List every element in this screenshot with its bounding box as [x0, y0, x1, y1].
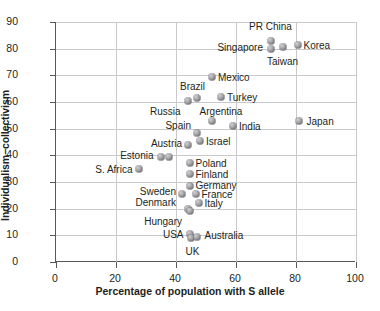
data-point-australia — [194, 233, 201, 240]
gridline-vertical — [356, 22, 357, 262]
plot-area: PR ChinaSingaporeTaiwanKoreaMexicoBrazil… — [55, 22, 355, 262]
x-tick — [116, 262, 117, 268]
data-point-argentina — [209, 117, 216, 124]
y-tick — [50, 102, 56, 103]
y-tick-label: 50 — [6, 122, 18, 134]
y-tick-label: 20 — [6, 202, 18, 214]
y-tick — [50, 75, 56, 76]
point-label-finland: Finland — [196, 169, 229, 180]
y-tick-label: 30 — [6, 175, 18, 187]
point-label-sweden: Sweden — [140, 186, 176, 197]
x-tick-label: 80 — [289, 272, 301, 284]
gridline-horizontal — [56, 75, 356, 76]
point-label-argentina: Argentina — [200, 106, 243, 117]
point-label-turkey: Turkey — [227, 91, 257, 102]
point-label-korea: Korea — [304, 39, 331, 50]
point-label-denmark: Denmark — [135, 197, 176, 208]
point-label-japan: Japan — [307, 115, 334, 126]
point-label-pr-china: PR China — [249, 21, 292, 32]
data-point-hungary — [186, 208, 193, 215]
x-tick-label: 40 — [169, 272, 181, 284]
point-label-taiwan: Taiwan — [267, 55, 298, 66]
data-point-brazil — [194, 95, 201, 102]
x-tick — [296, 262, 297, 268]
x-tick — [56, 262, 57, 268]
y-tick-label: 60 — [6, 95, 18, 107]
data-point-s-africa — [135, 165, 142, 172]
y-tick — [50, 129, 56, 130]
y-tick-label: 0 — [12, 255, 18, 267]
data-point-korea — [294, 41, 301, 48]
point-label-austria: Austria — [151, 138, 182, 149]
gridline-horizontal — [56, 102, 356, 103]
data-point-spain — [194, 129, 201, 136]
x-tick-label: 100 — [346, 272, 364, 284]
y-tick — [50, 22, 56, 23]
y-tick — [50, 49, 56, 50]
x-tick — [176, 262, 177, 268]
gridline-horizontal — [56, 155, 356, 156]
point-label-mexico: Mexico — [218, 71, 250, 82]
gridline-horizontal — [56, 129, 356, 130]
data-point-singapore — [267, 45, 274, 52]
point-label-poland: Poland — [196, 158, 227, 169]
x-tick-label: 20 — [109, 272, 121, 284]
x-tick-label: 0 — [52, 272, 58, 284]
point-label-australia: Australia — [205, 230, 244, 241]
point-label-usa: USA — [163, 229, 184, 240]
data-point-germany — [186, 183, 193, 190]
data-point-japan — [296, 117, 303, 124]
y-tick-label: 10 — [6, 228, 18, 240]
y-tick-label: 80 — [6, 42, 18, 54]
data-point-sweden — [179, 191, 186, 198]
point-label-italy: Italy — [205, 198, 223, 209]
x-tick-label: 60 — [229, 272, 241, 284]
point-label-hungary: Hungary — [144, 215, 182, 226]
data-point-russia — [185, 97, 192, 104]
data-point-italy — [195, 200, 202, 207]
data-point-india — [230, 123, 237, 130]
x-tick — [356, 262, 357, 268]
y-tick — [50, 155, 56, 156]
y-tick-label: 70 — [6, 68, 18, 80]
point-label-israel: Israel — [206, 135, 230, 146]
y-tick — [50, 182, 56, 183]
point-label-india: India — [239, 121, 261, 132]
point-label-russia: Russia — [150, 106, 181, 117]
data-point-poland — [186, 160, 193, 167]
data-point-estonia — [158, 153, 165, 160]
data-point-pr-china — [267, 37, 274, 44]
x-tick — [236, 262, 237, 268]
y-tick — [50, 209, 56, 210]
data-point-israel — [197, 137, 204, 144]
data-point-mexico — [209, 73, 216, 80]
point-label-brazil: Brazil — [180, 81, 205, 92]
data-point-finland — [186, 171, 193, 178]
data-point-austria — [185, 141, 192, 148]
scatter-plot-figure: Individualism−collectivism Percentage of… — [0, 0, 380, 311]
data-point-france — [192, 191, 199, 198]
y-tick-label: 90 — [6, 15, 18, 27]
point-label-s-africa: S. Africa — [95, 163, 132, 174]
y-tick — [50, 235, 56, 236]
y-tick-label: 40 — [6, 148, 18, 160]
data-point — [165, 153, 172, 160]
gridline-vertical — [116, 22, 117, 262]
point-label-uk: UK — [186, 246, 200, 257]
gridline-vertical — [236, 22, 237, 262]
point-label-spain: Spain — [165, 119, 191, 130]
x-axis-title: Percentage of population with S allele — [0, 285, 380, 297]
point-label-singapore: Singapore — [217, 42, 263, 53]
data-point-turkey — [218, 93, 225, 100]
point-label-estonia: Estonia — [120, 150, 153, 161]
data-point-taiwan — [279, 44, 286, 51]
gridline-horizontal — [56, 22, 356, 23]
